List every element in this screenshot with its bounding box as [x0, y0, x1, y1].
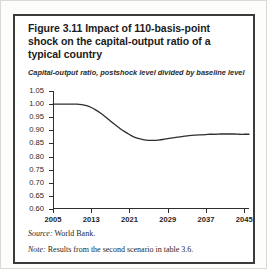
x-tick: [129, 209, 130, 213]
y-tick-label: 1.05: [29, 86, 44, 95]
plot-area: 1.051.000.950.900.850.800.750.700.650.60…: [53, 91, 249, 209]
x-tick-label: 2029: [159, 215, 176, 224]
series-line-capital-output-ratio: [53, 104, 249, 140]
x-tick-label: 2045: [236, 215, 253, 224]
results-note: Note: Results from the second scenario i…: [28, 245, 193, 254]
source-note: Source: World Bank.: [28, 229, 95, 238]
y-tick-label: 0.60: [29, 204, 44, 213]
x-tick: [53, 209, 54, 213]
figure-border: Figure 3.11 Impact of 110-basis-point sh…: [13, 14, 255, 264]
x-tick-label: 2037: [198, 215, 215, 224]
series-line-chart: [53, 91, 249, 209]
x-tick-label: 2021: [121, 215, 138, 224]
y-tick-label: 0.65: [29, 191, 44, 200]
x-tick: [168, 209, 169, 213]
y-tick-label: 0.95: [29, 112, 44, 121]
x-tick-label: 2005: [45, 215, 62, 224]
source-text: World Bank.: [54, 229, 95, 238]
y-tick-label: 0.70: [29, 178, 44, 187]
note-label: Note:: [28, 245, 46, 254]
x-tick: [91, 209, 92, 213]
note-text: Results from the second scenario in tabl…: [48, 245, 194, 254]
figure-title: Figure 3.11 Impact of 110-basis-point sh…: [28, 22, 242, 62]
y-tick-label: 1.00: [29, 99, 44, 108]
y-tick-label: 0.75: [29, 165, 44, 174]
y-tick-label: 0.80: [29, 152, 44, 161]
figure-page: Figure 3.11 Impact of 110-basis-point sh…: [0, 0, 267, 269]
y-tick-label: 0.85: [29, 138, 44, 147]
chart-subtitle: Capital-output ratio, postshock level di…: [28, 68, 246, 77]
source-label: Source:: [28, 229, 53, 238]
y-tick-label: 0.90: [29, 125, 44, 134]
x-tick: [244, 209, 245, 213]
x-tick: [206, 209, 207, 213]
x-tick-label: 2013: [83, 215, 100, 224]
